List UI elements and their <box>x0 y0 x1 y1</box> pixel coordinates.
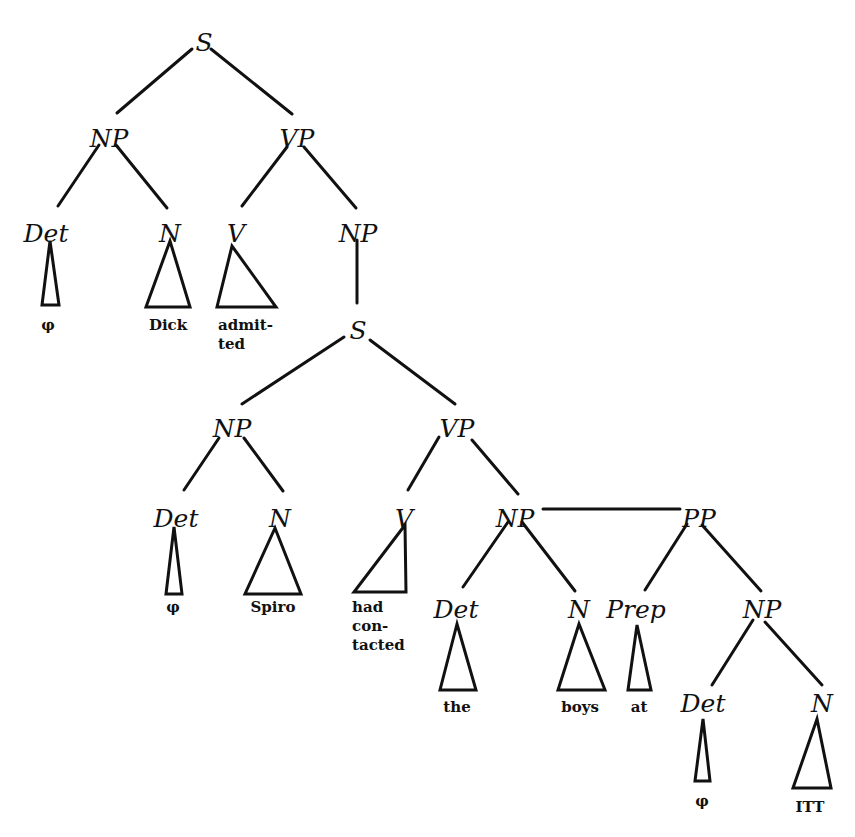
leaf-word-det3: the <box>443 698 470 716</box>
leaf-word-det4: φ <box>695 792 709 810</box>
leaf-word-prep1: at <box>631 698 648 716</box>
node-pp1: PP <box>681 504 717 533</box>
edge-np3-n2 <box>244 438 283 491</box>
node-n2: N <box>268 504 292 533</box>
tree-edges <box>58 49 822 685</box>
syntax-tree-diagram: SNPVPDetNVNPSNPVPDetNVNPPPDetNPrepNPDetN… <box>0 0 855 837</box>
edge-s2-vp2 <box>370 340 455 404</box>
triangle-icon <box>217 246 276 307</box>
edge-s2-np3 <box>242 337 344 404</box>
node-np5: NP <box>742 595 783 624</box>
node-prep1: Prep <box>605 595 666 624</box>
node-s2: S <box>349 316 366 345</box>
node-v2: V <box>395 504 416 533</box>
edge-np3-det2 <box>184 438 219 490</box>
node-vp1: VP <box>280 124 316 153</box>
edge-np5-det4 <box>712 620 753 685</box>
leaf-word-v2: had <box>352 598 384 616</box>
node-s1: S <box>195 28 212 57</box>
node-det1: Det <box>23 219 70 248</box>
triangle-icon <box>628 625 651 690</box>
edge-np5-n4 <box>765 622 822 685</box>
edge-s1-vp1 <box>211 49 292 114</box>
leaf-word-n4: ITT <box>796 798 826 816</box>
edge-pp1-np5 <box>702 525 761 591</box>
triangle-icon <box>166 527 182 594</box>
node-v1: V <box>227 219 248 248</box>
triangle-icon <box>440 624 476 690</box>
edge-vp1-v1 <box>242 147 287 206</box>
leaf-word-det1: φ <box>41 316 55 334</box>
edge-vp1-np2 <box>304 147 356 208</box>
node-det3: Det <box>433 595 480 624</box>
edge-vp2-np4 <box>472 440 518 494</box>
node-np2: NP <box>338 219 379 248</box>
triangle-icon <box>695 719 710 781</box>
node-np1: NP <box>89 124 130 153</box>
node-det2: Det <box>153 504 200 533</box>
triangle-icon <box>558 624 605 690</box>
node-n1: N <box>158 219 182 248</box>
triangle-icon <box>354 525 406 592</box>
triangle-icon <box>42 241 59 305</box>
triangle-icon <box>793 719 831 788</box>
node-det4: Det <box>680 689 727 718</box>
category-nodes: SNPVPDetNVNPSNPVPDetNVNPPPDetNPrepNPDetN <box>23 28 835 718</box>
leaf-word-det2: φ <box>166 598 180 616</box>
edge-np1-det1 <box>58 145 99 206</box>
leaf-word-n3: boys <box>561 698 599 716</box>
edge-np1-n1 <box>116 145 167 208</box>
triangle-icon <box>146 241 190 307</box>
node-np3: NP <box>212 414 253 443</box>
leaf-word-n1: Dick <box>149 316 188 334</box>
edge-pp1-prep1 <box>645 524 687 590</box>
leaf-word-v1: admit- <box>218 316 273 334</box>
node-np4: NP <box>495 504 536 533</box>
node-vp2: VP <box>440 414 476 443</box>
leaf-word-v2: tacted <box>352 636 405 654</box>
leaf-words: φDickadmit-tedφSpirohadcon-tactedtheboys… <box>41 316 825 816</box>
node-n4: N <box>810 689 834 718</box>
edge-vp2-v2 <box>408 437 439 490</box>
leaf-word-v1: ted <box>218 335 245 353</box>
edge-s1-np1 <box>117 49 192 113</box>
leaf-word-n2: Spiro <box>251 598 296 616</box>
node-n3: N <box>567 595 591 624</box>
leaf-word-v2: con- <box>352 617 388 635</box>
triangle-icon <box>245 528 301 594</box>
